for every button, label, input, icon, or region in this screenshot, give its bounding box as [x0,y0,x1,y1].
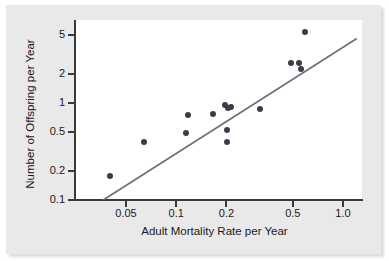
data-point [228,104,234,110]
x-tick-label: 0.5 [285,207,300,219]
y-axis-line [74,20,76,201]
y-axis-title: Number of Offspring per Year [24,14,36,214]
data-point [257,106,263,112]
x-axis-title: Adult Mortality Rate per Year [0,225,389,237]
y-tick-mark [68,170,75,172]
x-tick-label: 0.1 [169,207,184,219]
x-axis-line [74,199,363,201]
y-tick-label: 0.2 [50,164,65,176]
y-tick-mark [68,131,75,133]
x-tick-label: 0.2 [219,207,234,219]
y-tick-label: 5 [59,28,65,40]
x-tick-label: 0.05 [115,207,136,219]
y-tick-label: 2 [59,67,65,79]
data-point [224,139,230,145]
y-tick-mark [68,199,75,201]
data-point [288,60,294,66]
data-point [141,139,147,145]
plot-canvas [74,20,362,200]
y-tick-mark [68,102,75,104]
data-point [296,60,302,66]
x-tick-label: 1.0 [335,207,350,219]
y-tick-mark [68,34,75,36]
y-tick-label: 0.5 [50,125,65,137]
y-tick-label: 0.1 [50,193,65,205]
data-point [298,66,304,72]
y-tick-label: 1 [59,96,65,108]
scatter-plot-figure: 0.10.20.5125 0.050.10.20.51.0 Adult Mort… [0,0,389,261]
y-tick-mark [68,73,75,75]
